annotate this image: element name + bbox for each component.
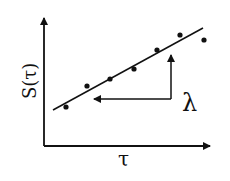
data-point — [63, 104, 68, 109]
x-axis-label: τ — [118, 147, 129, 171]
diagram-canvas: λ τ S(τ) — [0, 0, 230, 181]
y-axis-label: S(τ) — [19, 63, 40, 99]
data-point — [84, 83, 89, 88]
data-point — [154, 47, 159, 52]
data-point — [107, 76, 112, 81]
data-point — [131, 66, 136, 71]
data-point — [177, 32, 182, 37]
lambda-label: λ — [182, 89, 197, 117]
fit-line — [53, 28, 203, 110]
data-point — [201, 37, 206, 42]
